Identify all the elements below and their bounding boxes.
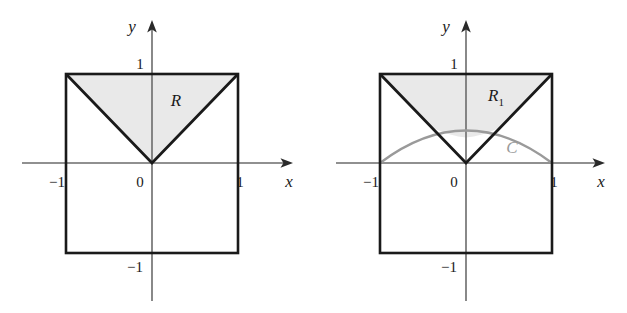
y-tick-label-positive-one: 1	[136, 56, 144, 72]
curve-label-C: C	[506, 138, 518, 157]
region-label-R1-subscript: 1	[498, 96, 504, 108]
x-tick-label-positive-one: 1	[550, 174, 558, 190]
math-figure: y x 1 −1 −1 1 0 R	[0, 0, 627, 313]
y-axis-label: y	[440, 17, 450, 36]
region-label-R1-base: R	[487, 86, 499, 105]
region-label-R: R	[170, 91, 182, 110]
x-tick-label-positive-one: 1	[236, 174, 244, 190]
y-tick-label-positive-one: 1	[450, 56, 458, 72]
y-tick-label-negative-one: −1	[441, 259, 457, 275]
plot-panel-left: y x 1 −1 −1 1 0 R	[0, 0, 313, 313]
coordinate-plot-right: y x 1 −1 −1 1 0 R1 C	[313, 0, 627, 313]
x-axis-label: x	[596, 172, 605, 191]
x-axis-label: x	[284, 172, 293, 191]
coordinate-plot-left: y x 1 −1 −1 1 0 R	[0, 0, 313, 313]
x-tick-label-negative-one: −1	[49, 174, 65, 190]
y-axis-label: y	[126, 17, 136, 36]
x-tick-label-negative-one: −1	[363, 174, 379, 190]
y-tick-label-negative-one: −1	[127, 259, 143, 275]
plot-panel-right: y x 1 −1 −1 1 0 R1 C	[313, 0, 627, 313]
origin-label: 0	[450, 174, 458, 190]
origin-label: 0	[136, 174, 144, 190]
